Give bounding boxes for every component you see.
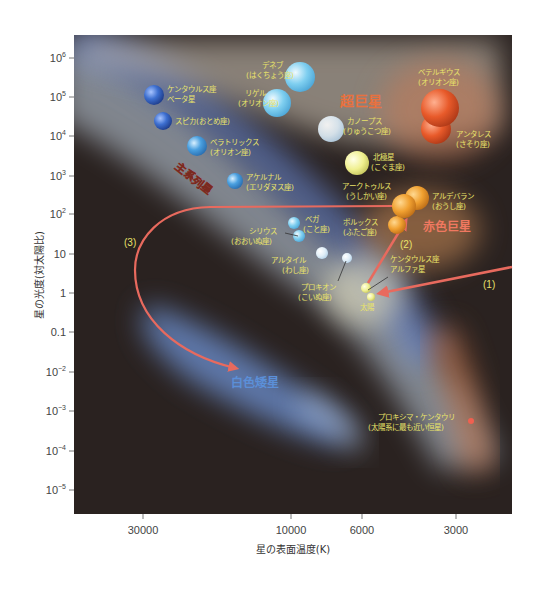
star-sun — [367, 293, 375, 301]
arrow-label-3: (3) — [124, 237, 136, 248]
y-tick-label: 10−3 — [46, 404, 66, 417]
y-tick-label: 10 — [54, 248, 66, 260]
star-proxima — [468, 418, 474, 424]
label-sirius: シリウス — [249, 227, 277, 236]
label-rigel: リゲル — [245, 89, 267, 98]
star-achernar — [227, 173, 243, 189]
label-bellatrix: ベラトリックス — [210, 138, 259, 147]
label-betelgeuse-2: (オリオン座) — [418, 77, 459, 87]
label-antares-2: (さそり座) — [456, 139, 490, 149]
label-procyon: プロキオン — [301, 283, 336, 292]
label-bellatrix-2: (オリオン座) — [210, 147, 251, 157]
label-aldebaran: アルデバラン — [432, 191, 474, 201]
label-spica: スピカ(おとめ座) — [175, 116, 230, 126]
y-tick-label: 1 — [60, 287, 66, 299]
label-centaurus-beta-2: ベータ星 — [167, 95, 196, 104]
x-tick-label: 6000 — [350, 524, 374, 536]
y-tick-label: 104 — [50, 129, 66, 142]
label-antares: アンタレス — [456, 130, 491, 139]
star-procyon — [342, 253, 352, 263]
label-vega-2: (こと座) — [303, 224, 330, 234]
star-bellatrix — [187, 136, 207, 156]
label-canopus: カノープス — [347, 117, 382, 126]
y-tick-label: 10−4 — [46, 444, 66, 457]
label-alpha-centauri-2: アルファ星 — [390, 265, 426, 274]
label-altair-2: (わし座) — [282, 265, 309, 275]
label-vega: ベガ — [305, 214, 320, 224]
y-axis: 1061051041031021010.110−210−310−410−5 — [46, 51, 74, 496]
star-altair — [316, 247, 328, 259]
label-proxima-2: (太陽系に最も近い恒星) — [368, 422, 444, 432]
region-label-white-dwarf: 白色矮星 — [231, 375, 279, 390]
region-label-red-giant: 赤色巨星 — [423, 219, 471, 234]
label-achernar-2: (エリダヌス座) — [246, 182, 294, 192]
x-tick-label: 10000 — [276, 524, 307, 536]
star-canopus — [318, 116, 344, 142]
label-deneb-2: (はくちょう座) — [246, 70, 294, 80]
label-centaurus-beta: ケンタウルス座 — [167, 84, 217, 94]
label-polaris-2: (こぐま座) — [371, 162, 405, 172]
star-pollux — [388, 216, 406, 234]
label-rigel-2: (オリオン座) — [238, 98, 279, 108]
label-polaris: 北極星 — [373, 152, 395, 162]
x-tick-label: 3000 — [444, 524, 468, 536]
x-axis-title: 星の表面温度(K) — [256, 543, 330, 555]
label-sun: 太陽 — [360, 302, 375, 312]
y-tick-label: 106 — [50, 51, 66, 64]
label-procyon-2: (こいぬ座) — [298, 292, 332, 302]
arrow-label-2: (2) — [400, 239, 412, 250]
label-sirius-2: (おおいぬ座) — [231, 236, 272, 246]
y-axis-title: 星の光度(対太陽比) — [33, 231, 45, 319]
label-altair: アルタイル — [271, 256, 307, 265]
y-tick-label: 102 — [50, 207, 66, 220]
label-alpha-centauri: ケンタウルス座 — [390, 254, 440, 264]
star-betelgeuse — [421, 89, 459, 127]
y-tick-label: 10−2 — [46, 365, 66, 378]
star-vega — [288, 217, 300, 229]
label-deneb: デネブ — [262, 60, 284, 70]
y-tick-label: 105 — [50, 90, 66, 103]
star-polaris — [345, 151, 369, 175]
star-alpha-centauri — [361, 283, 371, 293]
arrow-label-1: (1) — [483, 279, 495, 290]
star-spica — [154, 112, 172, 130]
hr-diagram: 超巨星 主系列星 赤色巨星 白色矮星 (1) (2) (3) — [0, 0, 540, 591]
label-aldebaran-2: (おうし座) — [432, 201, 466, 211]
star-centaurus-beta — [144, 85, 164, 105]
label-achernar: アケルナル — [246, 173, 282, 182]
y-tick-label: 10−5 — [46, 483, 66, 496]
region-label-supergiant: 超巨星 — [339, 93, 382, 109]
label-canopus-2: (りゅうこつ座) — [343, 126, 391, 136]
label-pollux-2: (ふたご座) — [343, 227, 377, 237]
label-proxima: プロキシマ・ケンタウリ — [378, 413, 455, 422]
x-tick-label: 30000 — [128, 524, 159, 536]
star-arcturus — [392, 194, 416, 218]
label-pollux: ポルックス — [343, 218, 378, 227]
y-tick-label: 103 — [50, 169, 66, 182]
x-axis: 300001000060003000 — [128, 514, 469, 536]
y-tick-label: 0.1 — [51, 326, 66, 338]
label-betelgeuse: ベテルギウス — [418, 68, 460, 77]
label-arcturus-2: (うしかい座) — [346, 191, 387, 201]
label-arcturus: アークトゥルス — [342, 182, 391, 191]
